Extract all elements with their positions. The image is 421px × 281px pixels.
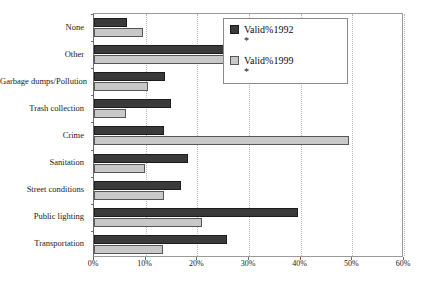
x-axis-tick-labels: 0%10%20%30%40%50%60% xyxy=(0,259,421,275)
bar xyxy=(94,99,171,108)
legend-swatch-icon xyxy=(230,25,239,34)
bar xyxy=(94,28,143,37)
x-axis-label-50%: 50% xyxy=(344,259,359,269)
y-axis-label-other: Other xyxy=(0,49,84,59)
y-axis-tick xyxy=(91,204,94,205)
y-axis-tick xyxy=(91,122,94,123)
x-axis-label-20%: 20% xyxy=(189,259,204,269)
y-axis-label-sanitation: Sanitation xyxy=(0,157,84,167)
y-axis-category-labels: NoneOtherGarbage dumps/PollutionTrash co… xyxy=(0,13,88,257)
y-axis-label-crime: Crime xyxy=(0,130,84,140)
chart-legend: Valid%1992*Valid%1999* xyxy=(223,18,348,84)
bar-group xyxy=(94,150,402,177)
legend-footnote-marker: * xyxy=(230,66,341,77)
legend-spacer xyxy=(230,48,341,55)
bar xyxy=(94,191,164,200)
bar xyxy=(94,82,148,91)
x-axis-label-0%: 0% xyxy=(88,259,99,269)
legend-entry-2[interactable]: Valid%1999* xyxy=(230,55,341,77)
bar-group xyxy=(94,95,402,122)
legend-swatch-icon xyxy=(230,56,239,65)
bar xyxy=(94,136,349,145)
y-axis-tick xyxy=(91,68,94,69)
bar xyxy=(94,235,227,244)
bar xyxy=(94,154,188,163)
legend-label: Valid%1999 xyxy=(244,55,293,66)
bar xyxy=(94,55,229,64)
bar xyxy=(94,18,127,27)
bar xyxy=(94,245,163,254)
y-axis-label-none: None xyxy=(0,22,84,32)
bar xyxy=(94,164,145,173)
bar xyxy=(94,218,202,227)
y-axis-tick xyxy=(91,150,94,151)
legend-main-row: Valid%1999 xyxy=(230,55,341,66)
y-axis-tick xyxy=(91,231,94,232)
y-axis-label-trash-collection: Trash collection xyxy=(0,103,84,113)
bar xyxy=(94,126,164,135)
bar-group xyxy=(94,122,402,149)
y-axis-tick xyxy=(91,177,94,178)
bar-group xyxy=(94,177,402,204)
bar xyxy=(94,45,239,54)
bar xyxy=(94,181,181,190)
y-axis-label-transportation: Transportation xyxy=(0,238,84,248)
bar-group xyxy=(94,231,402,258)
x-axis-label-30%: 30% xyxy=(241,259,256,269)
gridline-60% xyxy=(404,14,406,256)
bar-group xyxy=(94,204,402,231)
bar xyxy=(94,208,298,217)
bar xyxy=(94,109,126,118)
y-axis-label-garbage-dumps-pollution: Garbage dumps/Pollution xyxy=(0,76,84,86)
legend-footnote-marker: * xyxy=(230,35,341,46)
x-axis-label-40%: 40% xyxy=(292,259,307,269)
y-axis-label-street-conditions: Street conditions xyxy=(0,184,84,194)
y-axis-tick xyxy=(91,14,94,15)
y-axis-tick xyxy=(91,95,94,96)
bar xyxy=(94,72,165,81)
legend-label: Valid%1992 xyxy=(244,24,293,35)
legend-main-row: Valid%1992 xyxy=(230,24,341,35)
bar-chart: NoneOtherGarbage dumps/PollutionTrash co… xyxy=(0,0,421,281)
y-axis-tick xyxy=(91,41,94,42)
legend-entry-1[interactable]: Valid%1992* xyxy=(230,24,341,46)
y-axis-label-public-lighting: Public lighting xyxy=(0,211,84,221)
x-axis-label-10%: 10% xyxy=(137,259,152,269)
x-axis-label-60%: 60% xyxy=(396,259,411,269)
